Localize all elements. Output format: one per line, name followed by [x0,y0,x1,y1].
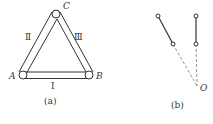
caption-a: (a) [44,96,56,106]
label-rod-i: Ⅰ [51,81,55,91]
rod-ii-inner [26,19,57,74]
figure-b [156,14,198,86]
label-b: B [95,71,103,81]
label-rod-ii: Ⅱ [25,32,31,42]
rod-iii-outer [60,12,93,72]
caption-b: (b) [171,100,184,110]
rod-ii-outer [19,12,52,72]
pin-left-top [156,14,160,18]
rod-left [158,16,173,44]
diagram-canvas: C A B Ⅱ Ⅲ Ⅰ (a) O (b) [0,0,213,124]
pin-right-top [194,14,198,18]
joint-c [52,10,60,18]
joint-b [85,71,93,79]
pin-left-bottom [171,42,175,46]
joint-a [19,71,27,79]
label-c: C [63,1,70,11]
label-o: O [200,83,208,93]
figure-a [19,10,93,79]
dashed-right [196,44,197,86]
label-rod-iii: Ⅲ [74,32,83,42]
pin-right-bottom [194,42,198,46]
rod-iii-inner [57,19,86,72]
dashed-left [173,44,197,86]
label-a: A [8,71,16,81]
